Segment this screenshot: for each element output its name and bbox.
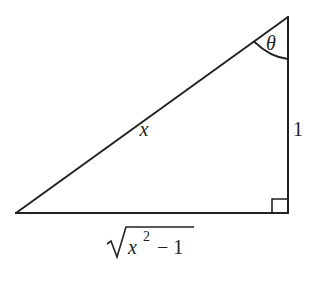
vertical-side-label: 1 — [293, 118, 303, 140]
base-label-exponent: 2 — [143, 229, 150, 244]
right-angle-marker — [272, 199, 288, 213]
base-label-minus-one: − 1 — [157, 236, 183, 258]
right-triangle-diagram: θ x 1 x 2 − 1 — [0, 0, 310, 281]
theta-label: θ — [266, 32, 276, 54]
base-label-variable: x — [127, 236, 137, 258]
base-label: x 2 − 1 — [107, 227, 194, 258]
hypotenuse-line — [16, 17, 288, 213]
hypotenuse-label: x — [139, 118, 149, 140]
